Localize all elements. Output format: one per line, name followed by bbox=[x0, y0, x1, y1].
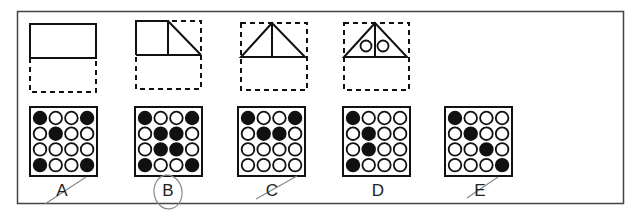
empty-dot bbox=[378, 159, 391, 172]
empty-dot bbox=[394, 143, 407, 156]
empty-dot bbox=[362, 159, 375, 172]
empty-dot bbox=[242, 127, 255, 140]
empty-dot bbox=[289, 159, 302, 172]
empty-dot bbox=[49, 143, 62, 156]
filled-dot bbox=[273, 127, 286, 140]
option-label-c[interactable]: C bbox=[257, 181, 287, 201]
empty-dot bbox=[449, 127, 462, 140]
empty-dot bbox=[49, 112, 62, 125]
empty-dot bbox=[170, 159, 183, 172]
figure-4-triangle-circles bbox=[344, 23, 409, 90]
filled-dot bbox=[139, 159, 152, 172]
empty-dot bbox=[139, 143, 152, 156]
empty-dot bbox=[34, 127, 47, 140]
filled-dot bbox=[464, 127, 477, 140]
filled-dot bbox=[186, 159, 199, 172]
filled-dot bbox=[496, 159, 509, 172]
empty-dot bbox=[186, 143, 199, 156]
filled-dot bbox=[347, 112, 360, 125]
empty-dot bbox=[65, 143, 78, 156]
option-grid-c[interactable] bbox=[238, 107, 305, 176]
empty-dot bbox=[257, 112, 270, 125]
empty-dot bbox=[378, 127, 391, 140]
option-grid-a[interactable] bbox=[30, 107, 97, 176]
filled-dot bbox=[347, 159, 360, 172]
puzzle-canvas bbox=[0, 0, 641, 218]
filled-dot bbox=[139, 112, 152, 125]
empty-dot bbox=[49, 159, 62, 172]
filled-dot bbox=[49, 127, 62, 140]
empty-dot bbox=[464, 112, 477, 125]
empty-dot bbox=[273, 112, 286, 125]
option-grid-e[interactable] bbox=[445, 107, 512, 176]
empty-dot bbox=[347, 143, 360, 156]
figure-3-triangle bbox=[241, 23, 307, 90]
filled-dot bbox=[186, 112, 199, 125]
filled-dot bbox=[34, 112, 47, 125]
filled-dot bbox=[289, 112, 302, 125]
empty-dot bbox=[154, 159, 167, 172]
empty-dot bbox=[186, 127, 199, 140]
empty-dot bbox=[464, 159, 477, 172]
empty-dot bbox=[242, 143, 255, 156]
empty-dot bbox=[480, 112, 493, 125]
empty-dot bbox=[154, 112, 167, 125]
empty-dot bbox=[81, 143, 94, 156]
option-label-e[interactable]: E bbox=[465, 181, 495, 201]
empty-dot bbox=[449, 159, 462, 172]
empty-dot bbox=[480, 127, 493, 140]
filled-dot bbox=[242, 112, 255, 125]
filled-dot bbox=[362, 127, 375, 140]
empty-dot bbox=[257, 159, 270, 172]
empty-dot bbox=[496, 112, 509, 125]
empty-dot bbox=[394, 112, 407, 125]
empty-dot bbox=[362, 112, 375, 125]
filled-dot bbox=[170, 127, 183, 140]
empty-dot bbox=[289, 143, 302, 156]
empty-dot bbox=[65, 159, 78, 172]
empty-dot bbox=[496, 127, 509, 140]
empty-dot bbox=[242, 159, 255, 172]
filled-dot bbox=[81, 112, 94, 125]
filled-dot bbox=[449, 112, 462, 125]
empty-dot bbox=[289, 127, 302, 140]
empty-dot bbox=[81, 127, 94, 140]
empty-dot bbox=[480, 159, 493, 172]
empty-dot bbox=[449, 143, 462, 156]
empty-dot bbox=[394, 127, 407, 140]
figure-2-square-triangle bbox=[136, 21, 201, 89]
option-label-b[interactable]: B bbox=[153, 181, 183, 201]
empty-dot bbox=[347, 127, 360, 140]
option-grid-d[interactable] bbox=[343, 107, 410, 176]
filled-dot bbox=[362, 143, 375, 156]
empty-dot bbox=[378, 112, 391, 125]
option-grid-b[interactable] bbox=[135, 107, 202, 176]
empty-dot bbox=[378, 143, 391, 156]
outer-frame bbox=[18, 12, 624, 204]
empty-dot bbox=[394, 159, 407, 172]
option-label-d[interactable]: D bbox=[363, 181, 393, 201]
puzzle-sheet: A B C D E bbox=[0, 0, 641, 218]
option-label-a[interactable]: A bbox=[47, 181, 77, 201]
filled-dot bbox=[257, 127, 270, 140]
empty-dot bbox=[65, 112, 78, 125]
filled-dot bbox=[170, 143, 183, 156]
empty-dot bbox=[496, 143, 509, 156]
empty-dot bbox=[170, 112, 183, 125]
filled-dot bbox=[154, 143, 167, 156]
filled-dot bbox=[154, 127, 167, 140]
empty-dot bbox=[65, 127, 78, 140]
empty-dot bbox=[273, 159, 286, 172]
empty-dot bbox=[273, 143, 286, 156]
empty-dot bbox=[139, 127, 152, 140]
empty-dot bbox=[464, 143, 477, 156]
figure-1-rectangle bbox=[30, 24, 96, 92]
answer-options bbox=[30, 107, 512, 176]
empty-dot bbox=[257, 143, 270, 156]
filled-dot bbox=[81, 159, 94, 172]
filled-dot bbox=[34, 159, 47, 172]
filled-dot bbox=[480, 143, 493, 156]
empty-dot bbox=[34, 143, 47, 156]
